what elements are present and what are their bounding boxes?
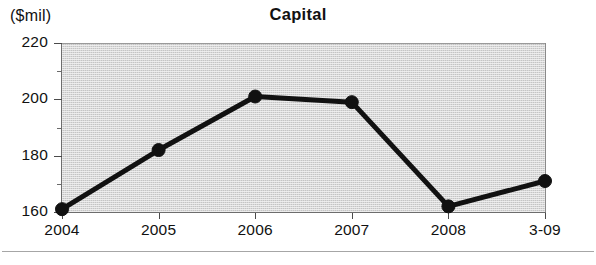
- plot-area: [62, 43, 546, 212]
- x-axis-tick-label-2008: 2008: [431, 221, 466, 239]
- x-axis-tick-2007: [352, 213, 353, 219]
- x-axis-tick-2004: [62, 213, 63, 219]
- x-axis-tick-3-09: [545, 213, 546, 219]
- y-axis-tick-label-180: 180: [22, 146, 48, 164]
- x-axis-tick-2005: [159, 213, 160, 219]
- y-axis-tick-label-200: 200: [22, 89, 48, 107]
- y-axis-minor-tick-170: [57, 184, 62, 185]
- plot-background-texture: [62, 43, 545, 212]
- x-axis-tick-2006: [255, 213, 256, 219]
- y-axis-tick-220: [54, 43, 62, 44]
- y-axis-tick-200: [54, 99, 62, 100]
- y-axis-tick-label-160: 160: [22, 202, 48, 220]
- y-axis-tick-160: [54, 212, 62, 213]
- y-axis-minor-tick-190: [57, 128, 62, 129]
- x-axis-tick-2008: [448, 213, 449, 219]
- x-axis-tick-label-2004: 2004: [44, 221, 79, 239]
- x-axis-line: [61, 212, 546, 213]
- plot-top-border: [62, 43, 545, 44]
- x-axis-tick-label-3-09: 3-09: [529, 221, 561, 239]
- x-axis-tick-label-2006: 2006: [238, 221, 273, 239]
- x-axis-tick-label-2005: 2005: [141, 221, 176, 239]
- y-axis-minor-tick-210: [57, 71, 62, 72]
- bottom-separator-rule: [2, 251, 594, 252]
- y-axis-tick-label-220: 220: [22, 33, 48, 51]
- chart-title: Capital: [0, 5, 596, 24]
- y-axis-tick-180: [54, 156, 62, 157]
- x-axis-tick-label-2007: 2007: [334, 221, 369, 239]
- capital-line-chart: ($mil) Capital 220200180160 200420052006…: [0, 0, 596, 265]
